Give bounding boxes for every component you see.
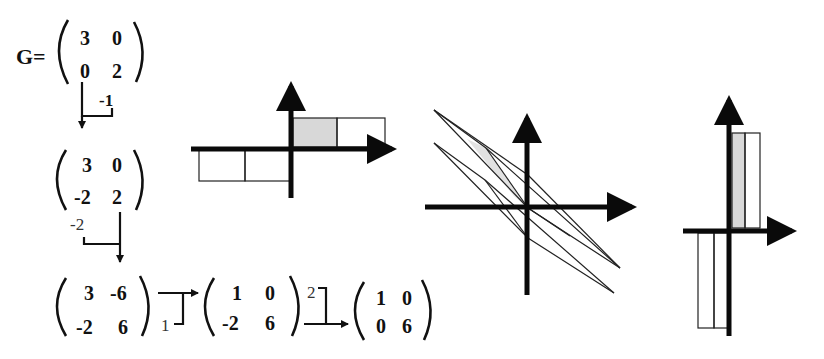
matrix-cell: 0 (265, 282, 275, 304)
matrix-cell: 1 (232, 282, 242, 304)
operation-connector-3: 1 (158, 293, 198, 335)
matrix-cell: 6 (118, 316, 128, 338)
matrix-cell: 0 (112, 27, 122, 49)
matrix-cell: 3 (80, 27, 90, 49)
shaded-cell (293, 118, 337, 147)
matrix-cell: -2 (74, 186, 91, 208)
matrix-cell: -2 (222, 312, 239, 334)
operation-connector-4: 2 (304, 283, 348, 324)
operation-connector-1: -1 (82, 82, 113, 128)
left-paren (59, 20, 68, 84)
right-paren (134, 150, 143, 210)
right-paren (134, 22, 143, 82)
multiplier-label: -1 (99, 91, 113, 110)
matrix-cell: 3 (82, 154, 92, 176)
matrix-cell: -6 (110, 282, 127, 304)
cell (199, 150, 245, 181)
left-paren (205, 278, 214, 336)
left-paren (355, 282, 364, 340)
shaded-cell (732, 133, 745, 228)
matrix-cell: 1 (376, 287, 386, 309)
cell (245, 150, 290, 181)
cell (745, 133, 760, 228)
panel-1-lattice (191, 86, 392, 198)
matrix-g: G= 3 0 0 2 (16, 20, 143, 84)
matrix-cell: 3 (84, 282, 94, 304)
matrix-cell: -2 (76, 316, 93, 338)
panel-2-lattice (425, 110, 632, 295)
matrix-cell: 2 (112, 186, 122, 208)
right-paren (422, 280, 431, 340)
operation-connector-2: -2 (70, 212, 120, 262)
matrix-cell: 6 (265, 312, 275, 334)
right-paren (290, 276, 299, 336)
matrix-step3: 1 0 -2 6 (205, 276, 299, 336)
matrix-step1: 3 0 -2 2 (57, 150, 143, 210)
matrix-cell: 0 (376, 315, 386, 337)
matrix-cell: 6 (402, 315, 412, 337)
matrix-step2: 3 -6 -2 6 (57, 276, 149, 338)
lattice-reduction-diagram: G= 3 0 0 2 -1 3 0 -2 2 -2 3 -6 -2 6 (0, 0, 824, 359)
multiplier-label: -2 (70, 215, 84, 234)
right-paren (140, 276, 149, 336)
matrix-step4: 1 0 0 6 (355, 280, 431, 340)
left-paren (57, 150, 66, 210)
multiplier-label: 2 (307, 283, 316, 302)
matrix-cell: 2 (112, 60, 122, 82)
left-paren (57, 278, 66, 336)
matrix-cell: 0 (112, 154, 122, 176)
panel-3-lattice (683, 100, 792, 336)
g-label: G= (16, 44, 46, 69)
multiplier-label: 1 (161, 316, 170, 335)
cell (698, 233, 714, 328)
cell (337, 118, 385, 147)
cell (714, 233, 728, 328)
matrix-cell: 0 (80, 60, 90, 82)
matrix-cell: 0 (402, 287, 412, 309)
